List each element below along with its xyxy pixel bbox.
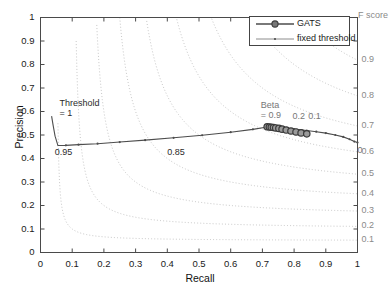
x-tick-label: 0.3: [121, 258, 151, 269]
annotation-beta-09-line1: Beta: [261, 100, 281, 110]
iso-f-contour-group: [58, 18, 358, 241]
precision-recall-chart: Precision Recall 00.10.20.30.40.50.60.70…: [0, 0, 391, 296]
x-tick-label: 0.4: [152, 258, 182, 269]
f-score-tick-label: 0.5: [362, 168, 375, 178]
data-point-fixed-threshold: [348, 138, 350, 140]
x-tick-label: 0.2: [89, 258, 119, 269]
data-point-fixed-threshold: [325, 132, 327, 134]
f-score-tick-label: 0.3: [362, 205, 375, 215]
y-tick-label: 0.5: [5, 129, 35, 140]
y-tick-label: 0.4: [5, 152, 35, 163]
data-point-fixed-threshold: [353, 140, 355, 142]
legend-item-fixed-threshold: fixed threshold: [250, 32, 349, 46]
legend-swatch-fixed-threshold: [255, 32, 295, 46]
annotation-threshold-1: Threshold= 1: [60, 98, 100, 118]
x-tick-label: 0.6: [216, 258, 246, 269]
f-score-tick-label: 0.4: [362, 188, 375, 198]
y-tick-label: 0.9: [5, 35, 35, 46]
x-axis-title: Recall: [150, 272, 250, 284]
legend-label-gats: GATS: [297, 18, 321, 28]
x-tick-label: 0.1: [57, 258, 87, 269]
f-score-tick-label: 0.6: [362, 146, 375, 156]
y-tick-label: 0: [5, 246, 35, 257]
data-point-gats: [304, 131, 310, 137]
data-point-fixed-threshold: [334, 134, 336, 136]
data-point-fixed-threshold: [96, 143, 98, 145]
data-point-fixed-threshold: [77, 144, 79, 146]
f-score-tick-label: 0.8: [362, 90, 375, 100]
y-tick-label: 0.8: [5, 58, 35, 69]
f-score-tick-label: 0.7: [362, 120, 375, 130]
data-point-fixed-threshold: [119, 141, 121, 143]
x-tick-label: 0.8: [279, 258, 309, 269]
x-tick-label: 0.7: [247, 258, 277, 269]
annotation-beta-0: 0: [358, 145, 363, 155]
data-point-fixed-threshold: [342, 136, 344, 138]
data-point-fixed-threshold: [315, 131, 317, 133]
f-score-axis-title: F score: [358, 10, 388, 20]
data-point-fixed-threshold: [356, 141, 358, 143]
y-tick-label: 0.6: [5, 105, 35, 116]
annotation-threshold-1-line2: = 1: [60, 108, 100, 118]
annotation-beta-09-line2: = 0.9: [261, 110, 281, 120]
data-point-fixed-threshold: [173, 137, 175, 139]
f-score-tick-label: 0.9: [362, 54, 375, 64]
f-score-tick-label: 0.2: [362, 220, 375, 230]
legend-label-fixed-threshold: fixed threshold: [297, 33, 356, 43]
y-tick-label: 0.1: [5, 223, 35, 234]
y-tick-label: 0.2: [5, 199, 35, 210]
data-point-fixed-threshold: [144, 139, 146, 141]
y-tick-label: 0.3: [5, 176, 35, 187]
data-point-fixed-threshold: [252, 128, 254, 130]
annotation-beta-01: 0.1: [308, 111, 321, 121]
y-tick-label: 1: [5, 11, 35, 22]
annotation-beta-02: 0.2: [293, 111, 306, 121]
y-tick-label: 0.7: [5, 82, 35, 93]
annotation-threshold-1-line1: Threshold: [60, 98, 100, 108]
legend: GATS fixed threshold: [249, 16, 350, 46]
legend-swatch-gats: [255, 17, 295, 31]
annotation-beta-09: Beta= 0.9: [261, 100, 281, 120]
x-tick-label: 1: [343, 258, 373, 269]
x-tick-label: 0.9: [311, 258, 341, 269]
data-point-fixed-threshold: [230, 131, 232, 133]
data-point-fixed-threshold: [201, 134, 203, 136]
annotation-threshold-085: 0.85: [167, 147, 185, 157]
x-tick-label: 0: [26, 258, 56, 269]
f-score-tick-label: 0.1: [362, 234, 375, 244]
x-tick-label: 0.5: [184, 258, 214, 269]
annotation-threshold-095: 0.95: [55, 147, 73, 157]
legend-item-gats: GATS: [250, 17, 349, 31]
